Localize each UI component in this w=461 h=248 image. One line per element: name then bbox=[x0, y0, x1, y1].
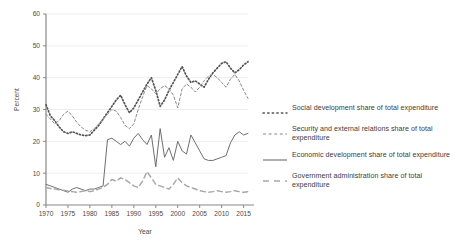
chart-container: 0102030405060 19701975198019851990199520… bbox=[0, 0, 461, 248]
svg-text:1995: 1995 bbox=[148, 210, 163, 217]
legend-item-social: Social development share of total expend… bbox=[262, 104, 458, 116]
svg-text:20: 20 bbox=[33, 138, 41, 145]
svg-text:1985: 1985 bbox=[105, 210, 120, 217]
y-axis-label: Percent bbox=[13, 70, 20, 130]
gridlines bbox=[46, 14, 248, 173]
svg-text:1990: 1990 bbox=[126, 210, 141, 217]
legend: Social development share of total expend… bbox=[262, 104, 458, 198]
legend-label-security: Security and external relations share of… bbox=[292, 125, 458, 142]
legend-key-dashed-long-icon bbox=[262, 175, 288, 187]
svg-text:2005: 2005 bbox=[192, 210, 207, 217]
legend-key-dotted-icon bbox=[262, 107, 288, 119]
legend-label-government: Government administration share of total… bbox=[292, 172, 458, 189]
legend-item-security: Security and external relations share of… bbox=[262, 125, 458, 142]
svg-text:50: 50 bbox=[33, 42, 41, 49]
svg-text:2015: 2015 bbox=[236, 210, 251, 217]
svg-text:10: 10 bbox=[33, 170, 41, 177]
legend-key-solid-icon bbox=[262, 154, 288, 166]
legend-item-economic: Economic development share of total expe… bbox=[262, 151, 458, 163]
x-axis-label: Year bbox=[95, 228, 195, 235]
svg-text:30: 30 bbox=[33, 106, 41, 113]
svg-text:60: 60 bbox=[33, 10, 41, 17]
svg-text:1980: 1980 bbox=[83, 210, 98, 217]
svg-text:2010: 2010 bbox=[214, 210, 229, 217]
series-lines bbox=[46, 62, 248, 193]
svg-text:1970: 1970 bbox=[39, 210, 54, 217]
y-tick-labels: 0102030405060 bbox=[33, 10, 41, 208]
legend-label-social: Social development share of total expend… bbox=[292, 104, 438, 113]
legend-label-economic: Economic development share of total expe… bbox=[292, 151, 450, 160]
legend-key-dashed-short-icon bbox=[262, 128, 288, 140]
svg-text:0: 0 bbox=[36, 201, 40, 208]
svg-text:2000: 2000 bbox=[170, 210, 185, 217]
svg-text:1975: 1975 bbox=[61, 210, 76, 217]
x-tick-labels: 1970197519801985199019952000200520102015 bbox=[39, 210, 252, 217]
legend-item-government: Government administration share of total… bbox=[262, 172, 458, 189]
svg-text:40: 40 bbox=[33, 74, 41, 81]
axes bbox=[43, 14, 254, 208]
